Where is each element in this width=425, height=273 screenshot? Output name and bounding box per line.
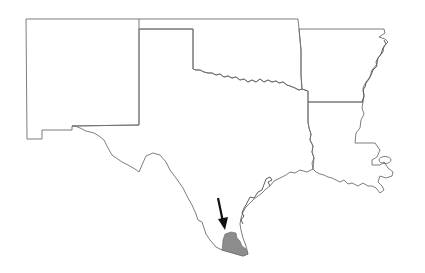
state-new-mexico [26,19,139,139]
state-louisiana [308,102,393,193]
state-arkansas [299,29,388,102]
map-container: New Mexico Texas Oklahoma Arkansas Louis… [0,0,425,273]
state-texas [72,29,314,256]
pointer-arrow [218,198,228,230]
lake-pontchartrain [379,157,391,164]
mississippi-river [362,40,386,102]
state-oklahoma [139,19,302,90]
texas-gulf-coast [241,177,272,224]
highlighted-region [222,232,248,256]
region-map [0,0,425,273]
